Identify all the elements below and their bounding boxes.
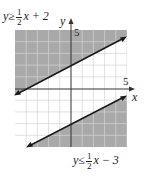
operator: ≤ — [78, 153, 85, 167]
inequality-label-bottom: y≤12x − 3 — [73, 152, 119, 171]
y-tick-label-5: 5 — [74, 26, 80, 38]
operator: ≥ — [8, 9, 15, 23]
x-tick-label-5: 5 — [123, 75, 129, 87]
denominator: 2 — [16, 18, 23, 27]
expression-rest: x + 2 — [23, 9, 48, 23]
fraction: 12 — [86, 152, 93, 171]
y-axis-arrow-icon — [69, 18, 74, 24]
fraction: 12 — [16, 8, 23, 27]
inequality-label-top: y≥12x + 2 — [3, 8, 49, 27]
expression-rest: x − 3 — [93, 153, 118, 167]
y-axis-label: y — [60, 14, 65, 29]
x-axis-label: x — [132, 90, 137, 105]
denominator: 2 — [86, 162, 93, 171]
